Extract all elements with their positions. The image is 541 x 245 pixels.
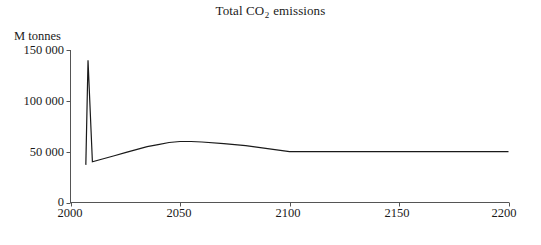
chart-plot-area xyxy=(0,0,541,245)
data-series-line xyxy=(86,60,509,165)
axis-lines xyxy=(70,50,509,203)
x-axis-ticks xyxy=(72,203,510,207)
chart-page: Total CO2 emissions M tonnes 150 000 100… xyxy=(0,0,541,245)
y-axis-ticks xyxy=(67,51,71,204)
